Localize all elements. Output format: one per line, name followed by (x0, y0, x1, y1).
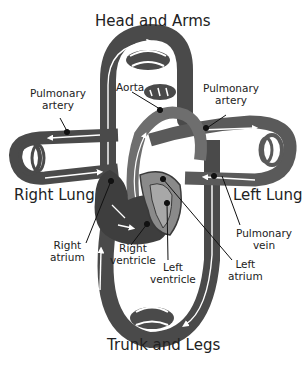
head-and-arms-label: Head and Arms (95, 13, 211, 30)
left-ventricle-label: Left ventricle (150, 262, 196, 286)
right-ventricle-label: Right ventricle (110, 243, 156, 267)
right-lung-label: Right Lung (14, 187, 95, 204)
aorta-label: Aorta (116, 82, 144, 94)
circulatory-system-diagram: Head and Arms Trunk and Legs Right Lung … (0, 0, 305, 365)
left-lung-label: Left Lung (233, 187, 303, 204)
left-atrium-label: Left atrium (228, 259, 263, 283)
pulmonary-vein-label: Pulmonary vein (236, 228, 292, 252)
left-lung-loop (150, 122, 290, 180)
circulation-illustration (0, 0, 305, 365)
pulmonary-artery-left-label: Pulmonary artery (203, 83, 259, 107)
pulmonary-artery-right-label: Pulmonary artery (30, 88, 86, 112)
right-atrium-label: Right atrium (50, 240, 85, 264)
trunk-and-legs-label: Trunk and Legs (107, 337, 220, 354)
